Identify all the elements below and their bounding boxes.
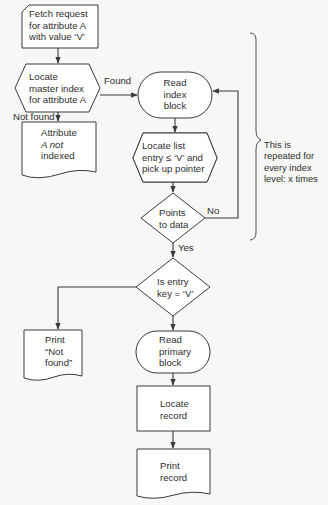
line: entry ≤ ‘V’ and (142, 152, 204, 164)
edge-label-found: Found (104, 75, 131, 87)
line: level: x times (264, 174, 318, 185)
is-entry-key-label: Is entry key = ‘V’ (157, 276, 194, 299)
line: record (160, 410, 189, 422)
line: Fetch request (29, 8, 88, 20)
line: master index (29, 83, 86, 95)
line: Attribute (41, 127, 77, 139)
edge-label-yes: Yes (178, 242, 194, 254)
fetch-request-label: Fetch request for attribute A with value… (29, 8, 88, 43)
line: every index (264, 163, 318, 174)
line: to data (159, 219, 188, 231)
points-to-data-label: Points to data (159, 207, 188, 230)
read-index-block-label: Read index block (150, 77, 200, 112)
line: Locate (160, 398, 189, 410)
line: Print (160, 460, 187, 472)
line: A not (41, 139, 77, 151)
line: Locate list (142, 140, 204, 152)
line: Is entry (157, 276, 194, 288)
line: block (159, 357, 191, 369)
line: for attribute A (29, 94, 86, 106)
line: Print (45, 334, 72, 346)
line: Read (159, 334, 191, 346)
line: Locate (29, 71, 86, 83)
locate-list-entry-label: Locate list entry ≤ ‘V’ and pick up poin… (142, 140, 204, 175)
print-record-label: Print record (160, 460, 187, 483)
line: key = ‘V’ (157, 288, 194, 300)
line: “Not (45, 346, 72, 358)
line: pick up pointer (142, 163, 204, 175)
locate-record-label: Locate record (160, 398, 189, 421)
edge-label-no: No (207, 205, 219, 217)
locate-master-index-label: Locate master index for attribute A (29, 71, 86, 106)
line: for attribute A (29, 20, 88, 32)
repeat-brace (250, 33, 261, 240)
line: Points (159, 207, 188, 219)
line: repeated for (264, 151, 318, 162)
print-not-found-label: Print “Not found” (45, 334, 72, 369)
arrow-key-no-to-not-found (58, 287, 136, 329)
line: This is (264, 140, 318, 151)
line: Read (150, 77, 200, 89)
line: found” (45, 357, 72, 369)
repeat-annotation: This is repeated for every index level: … (264, 140, 318, 185)
read-primary-block-label: Read primary block (159, 334, 191, 369)
line: indexed (41, 150, 77, 162)
line: record (160, 472, 187, 484)
line: with value ‘V’ (29, 31, 88, 43)
line: index (150, 89, 200, 101)
attribute-not-indexed-label: Attribute A not indexed (41, 127, 77, 162)
edge-label-not-found: Not found (13, 111, 55, 123)
line: primary (159, 346, 191, 358)
line: block (150, 100, 200, 112)
